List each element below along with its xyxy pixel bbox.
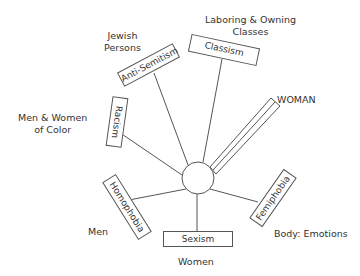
spoke-racism xyxy=(113,128,182,175)
box-sexism: Sexism xyxy=(163,231,233,247)
label-body-emotions: Body: Emotions xyxy=(274,228,348,240)
label-men: Men xyxy=(88,226,108,238)
spoke-classism xyxy=(203,59,222,162)
label-woman: WOMAN xyxy=(277,94,316,106)
label-men-women-of-color: Men & Women of Color xyxy=(18,112,87,136)
hub-circle xyxy=(182,162,214,194)
label-jewish-persons: Jewish Persons xyxy=(104,30,141,54)
spoke-femiphobia xyxy=(210,189,258,202)
label-women: Women xyxy=(178,256,214,268)
woman-double-bar xyxy=(210,98,280,174)
spoke-anti-semitism xyxy=(154,73,188,165)
spoke-homophobia xyxy=(129,189,186,200)
label-laboring-owning-classes: Laboring & Owning Classes xyxy=(205,14,296,38)
